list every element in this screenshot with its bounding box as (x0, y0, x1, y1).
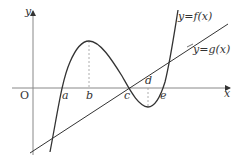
line-g-label: y=g(x) (192, 43, 230, 56)
point-label-e: e (160, 89, 167, 102)
point-label-b: b (86, 89, 93, 102)
curve-f (50, 10, 178, 152)
y-axis-label: y (24, 5, 32, 18)
point-label-a: a (62, 89, 69, 102)
point-label-c: c (124, 89, 130, 102)
point-label-d: d (145, 74, 152, 87)
origin-label: O (20, 89, 29, 102)
curve-f-label: y=f(x) (177, 10, 212, 23)
x-axis-label: x (224, 87, 231, 100)
function-diagram: y x O a b c d e y=f(x) y=g(x) (0, 0, 237, 162)
